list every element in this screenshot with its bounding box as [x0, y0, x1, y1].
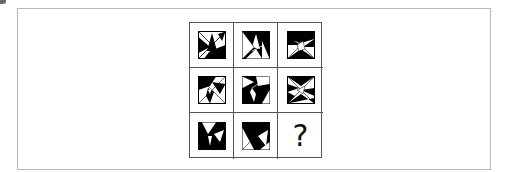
- figure-tile-r3c1: [198, 122, 226, 150]
- cell-r2c3: [278, 68, 323, 113]
- figure-tile-r3c2: [242, 122, 270, 150]
- cell-r3c2: [234, 113, 278, 159]
- cell-r3c1: [190, 113, 234, 159]
- puzzle-grid: ?: [189, 22, 322, 158]
- figure-tile-r2c3: [287, 76, 315, 104]
- figure-tile-r2c1: [198, 76, 226, 104]
- cell-r2c2: [234, 68, 278, 113]
- cell-r2c1: [190, 68, 234, 113]
- figure-tile-r1c2: [242, 31, 270, 59]
- cell-r1c3: [278, 23, 323, 68]
- corner-mark: [0, 0, 6, 4]
- question-mark: ?: [293, 121, 309, 151]
- cell-r1c1: [190, 23, 234, 68]
- figure-tile-r1c3: [287, 31, 315, 59]
- missing-answer-cell: ?: [278, 113, 323, 159]
- cell-r1c2: [234, 23, 278, 68]
- figure-tile-r1c1: [198, 31, 226, 59]
- figure-tile-r2c2: [242, 76, 270, 104]
